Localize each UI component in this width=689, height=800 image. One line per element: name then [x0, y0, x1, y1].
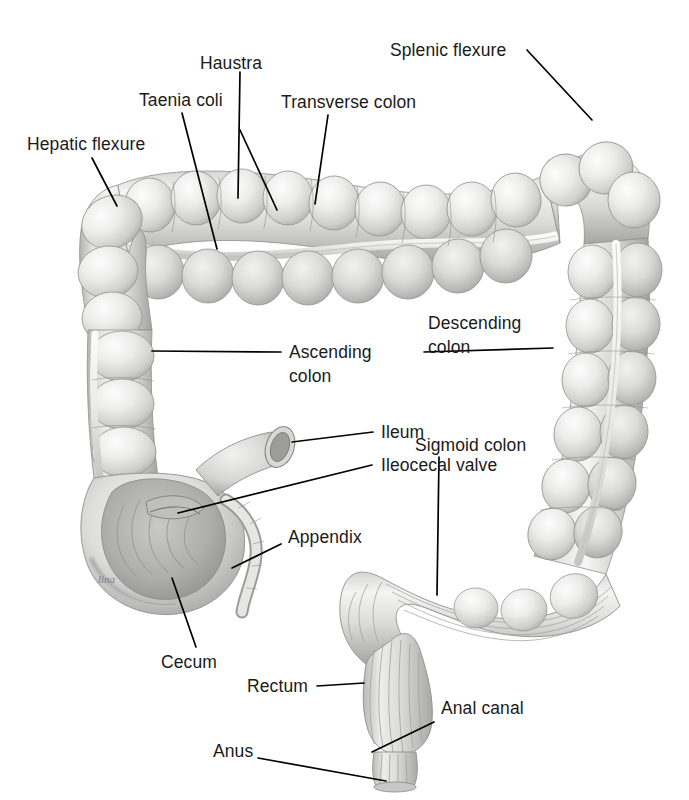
- leader-ascending-colon: [152, 351, 281, 352]
- ascending-colon-segment: [87, 330, 158, 478]
- label-transverse-colon: Transverse colon: [281, 92, 416, 112]
- label-appendix: Appendix: [288, 527, 362, 547]
- label-hepatic-flexure: Hepatic flexure: [27, 134, 145, 154]
- large-intestine-illustration: lina Hepatic flexure Taenia coli Haustra…: [0, 0, 689, 800]
- label-anal-canal: Anal canal: [441, 698, 524, 718]
- label-descending-colon-line1: Descending: [428, 313, 521, 333]
- label-ileocecal-valve: Ileocecal valve: [381, 455, 497, 475]
- label-ascending-colon-line2: colon: [289, 366, 331, 386]
- anatomy-figure: lina Hepatic flexure Taenia coli Haustra…: [0, 0, 689, 800]
- label-sigmoid-colon: Sigmoid colon: [415, 435, 526, 455]
- label-taenia-coli: Taenia coli: [139, 90, 223, 110]
- label-splenic-flexure: Splenic flexure: [390, 40, 506, 60]
- label-rectum: Rectum: [247, 676, 308, 696]
- artist-signature: lina: [98, 573, 116, 585]
- label-cecum: Cecum: [161, 652, 217, 672]
- label-haustra: Haustra: [200, 53, 262, 73]
- label-anus: Anus: [213, 741, 253, 761]
- anal-canal-segment: [373, 752, 418, 792]
- anus-opening: [374, 782, 416, 792]
- label-descending-colon-line2: colon: [428, 337, 470, 357]
- label-ascending-colon-line1: Ascending: [289, 342, 372, 362]
